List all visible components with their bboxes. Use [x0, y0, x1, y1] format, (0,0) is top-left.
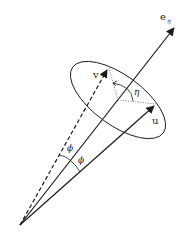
vector-v-arrow [20, 70, 107, 225]
label-phi-upper: ϕ [67, 143, 73, 153]
label-phi-lower: ϕ [78, 155, 84, 165]
label-u: u [152, 115, 159, 126]
label-v: v [92, 69, 99, 80]
cone-vector-diagram: e η v u η ϕ ϕ [0, 0, 185, 236]
vector-u-arrow [20, 106, 154, 225]
dotted-line-to-u [118, 100, 156, 104]
axis-e-eta-arrow [20, 28, 174, 225]
label-eta: η [134, 87, 140, 97]
phi-arc-upper [59, 155, 70, 160]
label-e-eta-subscript: η [167, 17, 171, 25]
diagram-canvas: e η v u η ϕ ϕ [0, 0, 185, 236]
label-e-eta: e [160, 11, 166, 22]
